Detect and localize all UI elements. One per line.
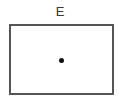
center-dot-icon — [59, 58, 64, 63]
diagram-label: E — [0, 4, 120, 20]
